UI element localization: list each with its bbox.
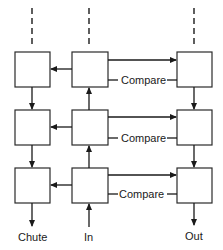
out-cell-row1 [177,52,212,87]
in-cell-row2 [72,110,108,145]
compare-label-row3: Compare [119,188,164,200]
in-cell-row1 [72,52,108,87]
out-cell-row3 [177,168,212,203]
in-label: In [84,231,93,243]
chute-cell-row2 [15,110,50,145]
compare-label-row2: Compare [121,132,166,144]
in-cell-row3 [72,168,108,203]
out-cell-row2 [177,110,212,145]
out-label: Out [185,230,203,242]
compare-label-row1: Compare [121,74,166,86]
chute-cell-row1 [15,52,50,87]
chute-label: Chute [18,231,47,243]
sorting-network-diagram: Compare Compare Compare Chute In Out [0,0,223,250]
chute-cell-row3 [15,168,50,203]
